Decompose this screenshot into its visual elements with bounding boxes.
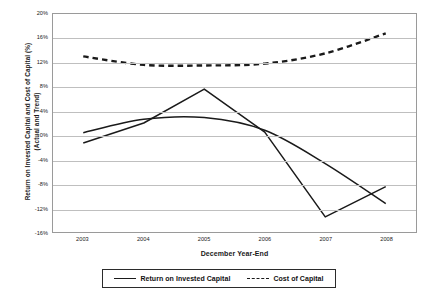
gridline [53,87,416,88]
dashed-line-swatch-icon [247,278,269,279]
plot-area [52,13,417,233]
x-axis-title: December Year-End [52,250,417,257]
gridline [53,63,416,64]
gridline [53,38,416,39]
x-tick-label: 2006 [259,236,272,242]
gridline [53,112,416,113]
x-tick-label: 2007 [319,236,332,242]
y-tick-label: -12% [6,206,52,212]
y-tick-label: 20% [6,10,52,16]
x-axis-ticks: 200320042005200620072008 [52,236,417,248]
gridline [53,161,416,162]
y-tick-label: 12% [6,59,52,65]
legend-item-roic: Return on Invested Capital [114,275,230,282]
series-layer [53,14,416,232]
legend-label-roic: Return on Invested Capital [140,275,230,282]
chart-legend: Return on Invested Capital Cost of Capit… [102,269,336,288]
series-line [83,89,385,217]
x-tick-label: 2008 [380,236,393,242]
y-axis-ticks: 20%16%12%8%4%0%-4%-8%-12%-16% [0,13,52,233]
gridline [53,185,416,186]
y-tick-label: -8% [6,181,52,187]
y-tick-label: -4% [6,157,52,163]
x-tick-label: 2003 [76,236,89,242]
y-tick-label: -16% [6,230,52,236]
gridline [53,136,416,137]
legend-item-coc: Cost of Capital [247,275,323,282]
plot-inner [53,14,416,232]
legend-label-coc: Cost of Capital [273,275,323,282]
x-tick-label: 2004 [137,236,150,242]
y-tick-label: 16% [6,34,52,40]
y-tick-label: 4% [6,108,52,114]
x-tick-label: 2005 [198,236,211,242]
chart-container: Return on Invested Capital and Cost of C… [0,0,429,295]
y-tick-label: 0% [6,132,52,138]
y-tick-label: 8% [6,83,52,89]
solid-line-swatch-icon [114,278,136,279]
gridline [53,210,416,211]
